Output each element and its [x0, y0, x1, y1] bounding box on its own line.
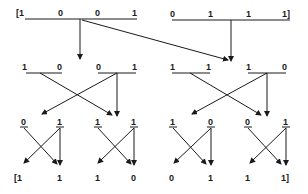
level-2-group-1: 1 0 — [22, 62, 62, 73]
output-label: 0 — [131, 173, 136, 183]
output-label: 1 — [208, 173, 213, 183]
butterfly-diagram: [1 0 0 1 0 1 1 1] 1 0 0 1 1 1 1 0 — [0, 0, 308, 194]
node-label: 0 — [282, 62, 287, 72]
output-label: 0 — [169, 173, 174, 183]
arrow-cross — [192, 73, 267, 114]
node-label: [1 — [16, 8, 24, 18]
node-label: 0 — [21, 117, 26, 127]
node-label: 1 — [208, 9, 213, 19]
output-label: 1 — [57, 173, 62, 183]
level-3: 0 1 1 1 1 0 0 1 — [20, 117, 290, 127]
output-label: 1 — [245, 173, 250, 183]
output-label: [1 — [14, 173, 22, 183]
arrow-cross — [174, 128, 211, 163]
node-label: 1 — [206, 62, 211, 72]
level-2-group-2: 0 1 — [96, 62, 137, 73]
arrow-cross — [82, 20, 228, 60]
node-label: 1 — [246, 9, 251, 19]
node-label: 1 — [131, 117, 136, 127]
arrow-cross — [248, 128, 281, 164]
node-label: 1 — [170, 117, 175, 127]
node-label: 0 — [95, 8, 100, 18]
arrow-cross — [190, 73, 261, 115]
output-label: 1 — [95, 173, 100, 183]
node-label: 1 — [246, 62, 251, 72]
node-label: 1 — [170, 62, 175, 72]
node-label: 1 — [22, 62, 27, 72]
arrow-cross — [42, 73, 117, 114]
level-1-group-left: [1 0 0 1 — [16, 8, 137, 19]
node-label: 0 — [58, 8, 63, 18]
node-label: 1 — [283, 117, 288, 127]
arrow-cross — [250, 128, 286, 163]
output-label: 1] — [281, 173, 289, 183]
level-2-group-4: 1 0 — [246, 62, 287, 73]
node-label: 0 — [170, 9, 175, 19]
level-2-group-3: 1 1 — [170, 62, 211, 73]
level-1-group-right: 0 1 1 1] — [170, 9, 290, 20]
output-row: [1 1 1 0 0 1 1 1] — [14, 173, 289, 183]
node-label: 0 — [57, 62, 62, 72]
node-label: 0 — [208, 117, 213, 127]
node-label: 1 — [57, 117, 62, 127]
node-label: 1] — [282, 9, 290, 19]
node-label: 1 — [95, 117, 100, 127]
node-label: 1 — [132, 8, 137, 18]
node-label: 1 — [132, 62, 137, 72]
node-label: 0 — [245, 117, 250, 127]
node-label: 0 — [96, 62, 101, 72]
